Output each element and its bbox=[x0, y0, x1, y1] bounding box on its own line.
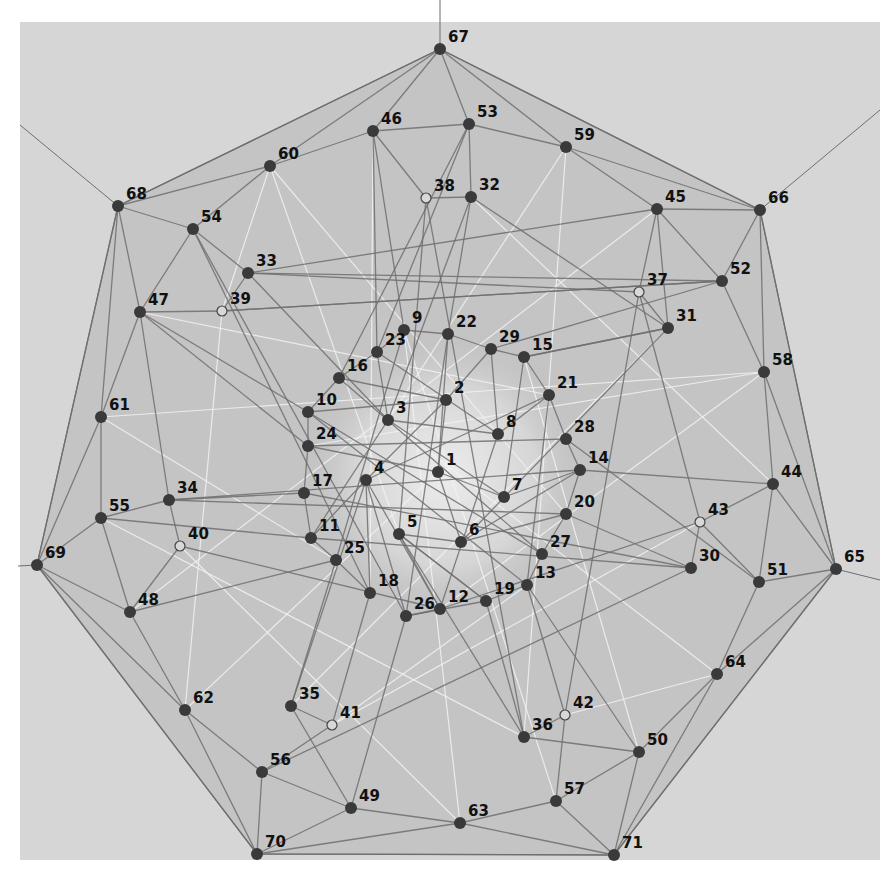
filled-node-marker-icon bbox=[330, 554, 342, 566]
filled-node-marker-icon bbox=[302, 440, 314, 452]
open-node-marker-icon bbox=[560, 710, 570, 720]
node-label: 6 bbox=[469, 521, 479, 539]
node-label: 35 bbox=[299, 685, 320, 703]
node-label: 64 bbox=[725, 653, 746, 671]
node-label: 44 bbox=[781, 463, 802, 481]
filled-node-marker-icon bbox=[285, 700, 297, 712]
node-label: 47 bbox=[148, 291, 169, 309]
node-label: 48 bbox=[138, 591, 159, 609]
node-label: 5 bbox=[407, 513, 417, 531]
filled-node-marker-icon bbox=[492, 428, 504, 440]
node-label: 50 bbox=[647, 731, 668, 749]
node-label: 54 bbox=[201, 208, 222, 226]
node-label: 14 bbox=[588, 449, 609, 467]
filled-node-marker-icon bbox=[767, 478, 779, 490]
filled-node-marker-icon bbox=[560, 433, 572, 445]
node-label: 38 bbox=[434, 177, 455, 195]
node-label: 16 bbox=[347, 357, 368, 375]
node-label: 70 bbox=[265, 833, 286, 851]
node-label: 56 bbox=[270, 751, 291, 769]
node-label: 12 bbox=[448, 588, 469, 606]
filled-node-marker-icon bbox=[633, 746, 645, 758]
node-label: 20 bbox=[574, 493, 595, 511]
node-label: 39 bbox=[230, 290, 251, 308]
filled-node-marker-icon bbox=[498, 491, 510, 503]
filled-node-marker-icon bbox=[382, 414, 394, 426]
node-label: 21 bbox=[557, 374, 578, 392]
node-label: 28 bbox=[574, 418, 595, 436]
node-label: 66 bbox=[768, 189, 789, 207]
node-label: 10 bbox=[316, 391, 337, 409]
node-label: 25 bbox=[344, 539, 365, 557]
filled-node-marker-icon bbox=[95, 411, 107, 423]
node-label: 62 bbox=[193, 689, 214, 707]
filled-node-marker-icon bbox=[163, 494, 175, 506]
filled-node-marker-icon bbox=[536, 548, 548, 560]
filled-node-marker-icon bbox=[608, 849, 620, 861]
filled-node-marker-icon bbox=[521, 579, 533, 591]
node-label: 1 bbox=[446, 451, 456, 469]
filled-node-marker-icon bbox=[550, 795, 562, 807]
node-label: 60 bbox=[278, 145, 299, 163]
node-label: 2 bbox=[454, 379, 464, 397]
filled-node-marker-icon bbox=[95, 512, 107, 524]
filled-node-marker-icon bbox=[393, 528, 405, 540]
node-label: 53 bbox=[477, 103, 498, 121]
node-label: 11 bbox=[319, 517, 340, 535]
node-label: 65 bbox=[844, 548, 865, 566]
filled-node-marker-icon bbox=[434, 43, 446, 55]
open-node-marker-icon bbox=[175, 541, 185, 551]
node-label: 52 bbox=[730, 260, 751, 278]
node-label: 29 bbox=[499, 328, 520, 346]
filled-node-marker-icon bbox=[31, 559, 43, 571]
filled-node-marker-icon bbox=[574, 464, 586, 476]
filled-node-marker-icon bbox=[264, 160, 276, 172]
node-label: 49 bbox=[359, 787, 380, 805]
node-label: 8 bbox=[506, 413, 516, 431]
filled-node-marker-icon bbox=[434, 603, 446, 615]
node-label: 9 bbox=[412, 309, 422, 327]
node-label: 40 bbox=[188, 525, 209, 543]
filled-node-marker-icon bbox=[298, 487, 310, 499]
filled-node-marker-icon bbox=[440, 394, 452, 406]
node-label: 51 bbox=[767, 561, 788, 579]
node-label: 33 bbox=[256, 252, 277, 270]
filled-node-marker-icon bbox=[685, 562, 697, 574]
filled-node-marker-icon bbox=[830, 563, 842, 575]
node-label: 32 bbox=[479, 176, 500, 194]
node-label: 43 bbox=[708, 501, 729, 519]
filled-node-marker-icon bbox=[371, 346, 383, 358]
filled-node-marker-icon bbox=[543, 389, 555, 401]
node-label: 30 bbox=[699, 547, 720, 565]
filled-node-marker-icon bbox=[716, 275, 728, 287]
filled-node-marker-icon bbox=[560, 508, 572, 520]
filled-node-marker-icon bbox=[333, 372, 345, 384]
filled-node-marker-icon bbox=[256, 766, 268, 778]
node-label: 67 bbox=[448, 28, 469, 46]
node-label: 69 bbox=[45, 544, 66, 562]
filled-node-marker-icon bbox=[651, 203, 663, 215]
node-label: 23 bbox=[385, 331, 406, 349]
filled-node-marker-icon bbox=[124, 606, 136, 618]
node-label: 61 bbox=[109, 396, 130, 414]
filled-node-marker-icon bbox=[367, 125, 379, 137]
node-label: 59 bbox=[574, 126, 595, 144]
node-label: 55 bbox=[109, 497, 130, 515]
node-label: 37 bbox=[647, 271, 668, 289]
node-label: 3 bbox=[396, 399, 406, 417]
open-node-marker-icon bbox=[421, 193, 431, 203]
filled-node-marker-icon bbox=[454, 817, 466, 829]
filled-node-marker-icon bbox=[251, 848, 263, 860]
node-label: 4 bbox=[374, 459, 384, 477]
filled-node-marker-icon bbox=[305, 532, 317, 544]
filled-node-marker-icon bbox=[302, 406, 314, 418]
node-label: 36 bbox=[532, 716, 553, 734]
filled-node-marker-icon bbox=[485, 343, 497, 355]
node-label: 18 bbox=[378, 572, 399, 590]
node-label: 13 bbox=[535, 564, 556, 582]
node-label: 68 bbox=[126, 185, 147, 203]
node-label: 71 bbox=[622, 834, 643, 852]
open-node-marker-icon bbox=[217, 306, 227, 316]
filled-node-marker-icon bbox=[360, 474, 372, 486]
node-label: 57 bbox=[564, 780, 585, 798]
